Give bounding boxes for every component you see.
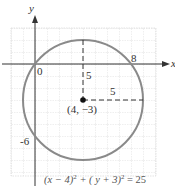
x-intercept-label: 8	[131, 53, 137, 64]
y-axis-label: y	[29, 3, 34, 14]
equation-term-x: (x − 4)	[44, 174, 73, 185]
center-label: (4, −3)	[67, 104, 97, 115]
vertical-radius-label: 5	[86, 70, 92, 81]
y-intercept-label: -6	[20, 136, 29, 147]
equation-term-y: + ( y + 3)	[77, 174, 121, 185]
coordinate-plane	[0, 0, 175, 189]
y-axis-arrow-icon	[32, 15, 38, 23]
circle-equation: (x − 4)2 + ( y + 3)2 = 25	[44, 175, 146, 186]
horizontal-radius-label: 5	[110, 86, 116, 97]
origin-label: 0	[37, 66, 43, 77]
x-axis-label: x	[171, 58, 175, 69]
center-point	[80, 97, 86, 103]
equation-rhs: = 25	[124, 174, 146, 185]
x-axis-arrow-icon	[162, 61, 170, 67]
